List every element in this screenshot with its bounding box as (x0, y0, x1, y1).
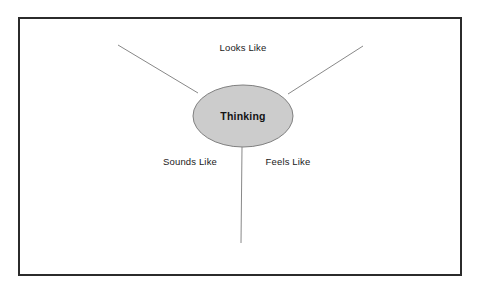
spoke-line-looks-like (118, 45, 198, 93)
center-label-thinking: Thinking (220, 111, 265, 122)
diagram-canvas: Thinking Looks Like Sounds Like Feels Li… (0, 0, 482, 289)
spoke-line-sounds-like (241, 147, 242, 243)
spoke-line-feels-like (288, 46, 363, 94)
spoke-label-sounds-like: Sounds Like (163, 157, 217, 167)
spoke-label-feels-like: Feels Like (266, 157, 311, 167)
spoke-label-looks-like: Looks Like (220, 43, 267, 53)
